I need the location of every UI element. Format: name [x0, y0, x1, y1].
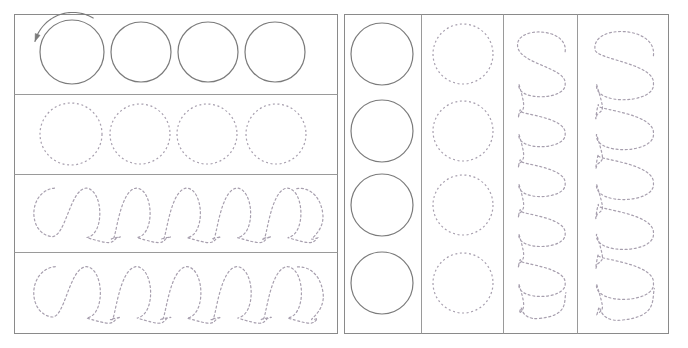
column-solid-circles-circle-4 — [351, 252, 413, 314]
row-solid-circles-circle-4 — [245, 22, 305, 82]
right-panel — [345, 15, 669, 334]
right-panel-shapes — [351, 23, 654, 320]
row-solid-circles-circle-2 — [111, 22, 171, 82]
column-dashed-circles-circle-2 — [433, 101, 493, 161]
row-solid-circles-circle-3 — [178, 22, 238, 82]
row-dashed-loops-b-path — [34, 267, 324, 324]
column-dashed-circles-circle-4 — [433, 253, 493, 313]
column-dashed-circles-circle-1 — [433, 24, 493, 84]
row-dashed-circles-circle-2 — [110, 104, 170, 164]
row-dashed-circles-circle-1 — [40, 103, 102, 165]
column-dashed-loops-b-path — [595, 31, 654, 320]
row-dashed-circles-circle-3 — [177, 104, 237, 164]
column-solid-circles-circle-3 — [351, 174, 413, 236]
panel-dividers — [15, 15, 578, 334]
worksheet-canvas — [0, 0, 688, 348]
row-dashed-loops-a-path — [34, 188, 323, 243]
worksheet-drawing — [0, 0, 688, 348]
row-solid-circles-circle-1 — [40, 20, 104, 84]
column-dashed-loops-a-path — [518, 32, 566, 319]
column-solid-circles-circle-1 — [351, 23, 413, 85]
column-dashed-circles-circle-3 — [433, 175, 493, 235]
arrow-head — [35, 33, 40, 41]
row-dashed-circles-circle-4 — [246, 104, 306, 164]
left-panel-shapes — [34, 20, 324, 323]
column-solid-circles-circle-2 — [351, 100, 413, 162]
